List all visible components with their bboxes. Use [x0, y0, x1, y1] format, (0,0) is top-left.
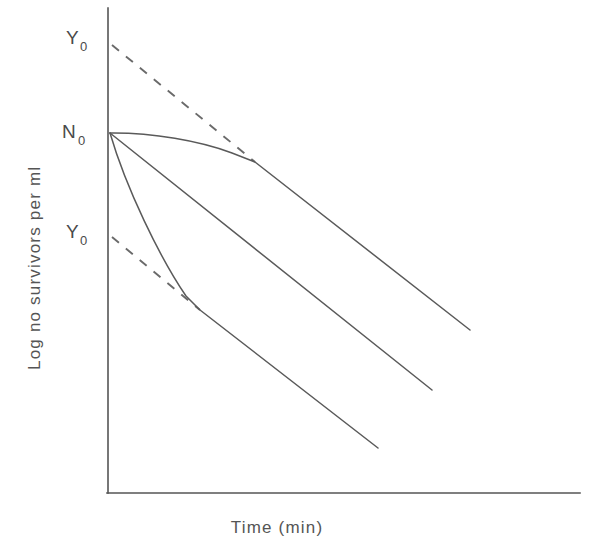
x-axis-title: Time (min) — [231, 518, 324, 537]
y-axis-label-n0: N 0 — [62, 121, 85, 148]
plot-canvas: Y 0 N 0 Y 0 Log no survivors per ml Time… — [0, 0, 602, 547]
y-axis-label-y0-upper: Y 0 — [66, 27, 87, 54]
shoulder-survivor-curve — [110, 133, 470, 330]
log-linear-survivor-curve — [110, 133, 432, 390]
upper-extrapolation-dashed-line — [112, 45, 255, 162]
concave-survivor-curve — [110, 133, 378, 448]
y0-upper-subscript: 0 — [80, 39, 87, 54]
y-axis-title: Log no survivors per ml — [25, 166, 44, 370]
y0-lower-base: Y — [66, 221, 79, 242]
n0-subscript: 0 — [78, 133, 85, 148]
survival-curve-figure: Y 0 N 0 Y 0 Log no survivors per ml Time… — [0, 0, 602, 547]
n0-base: N — [62, 121, 76, 142]
y0-upper-base: Y — [66, 27, 79, 48]
lower-extrapolation-dashed-line — [112, 237, 200, 310]
y-axis-label-y0-lower: Y 0 — [66, 221, 87, 248]
y0-lower-subscript: 0 — [80, 233, 87, 248]
